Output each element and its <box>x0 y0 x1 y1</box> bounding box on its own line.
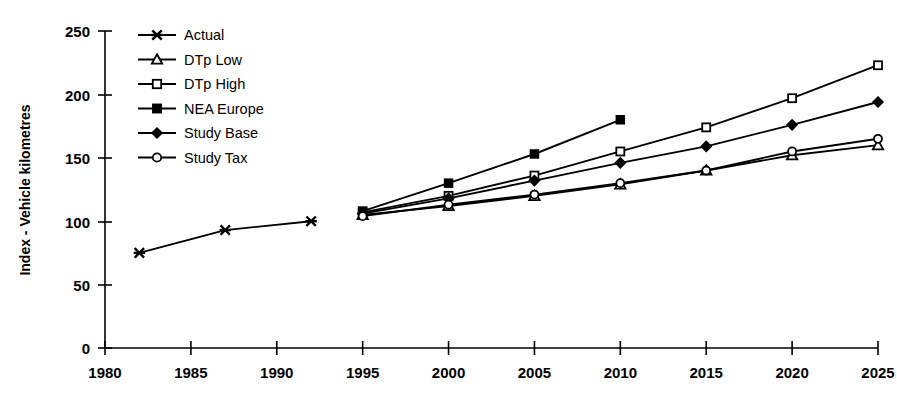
x-tick-label-1995: 1995 <box>346 364 379 381</box>
x-tick-label-2015: 2015 <box>690 364 723 381</box>
data-point-study-tax-1995 <box>359 212 367 220</box>
data-point-study-base-2015 <box>701 141 711 151</box>
x-tick-label-2005: 2005 <box>518 364 551 381</box>
data-point-actual-1992 <box>305 217 316 226</box>
legend-marker-square-icon <box>153 104 161 112</box>
y-tick-label-250: 250 <box>65 23 90 40</box>
x-tick-label-1985: 1985 <box>174 364 207 381</box>
data-point-study-base-2025 <box>873 97 883 107</box>
legend-marker-square-icon <box>153 80 161 88</box>
x-tick-label-1990: 1990 <box>260 364 293 381</box>
legend-label: Study Base <box>184 125 258 141</box>
data-point-study-tax-2005 <box>530 191 538 199</box>
data-point-study-tax-2020 <box>788 147 796 155</box>
series-line <box>139 221 311 253</box>
x-tick-label-2020: 2020 <box>775 364 808 381</box>
data-point-nea-europe-2000 <box>445 179 453 187</box>
x-tick-label-2010: 2010 <box>604 364 637 381</box>
y-tick-label-150: 150 <box>65 150 90 167</box>
chart-container: Index - Vehicle kilometres 250 200 150 1… <box>0 0 897 403</box>
y-tick-label-50: 50 <box>73 277 90 294</box>
data-point-study-base-2010 <box>615 158 625 168</box>
data-point-actual-1987 <box>220 225 231 234</box>
series-actual <box>134 217 317 258</box>
data-point-study-tax-2015 <box>702 166 710 174</box>
legend-item-nea-europe[interactable]: NEA Europe <box>138 101 264 117</box>
data-point-study-tax-2010 <box>616 179 624 187</box>
legend-marker-diamond-icon <box>152 128 162 138</box>
y-tick-label-0: 0 <box>82 340 90 357</box>
legend-marker-cross-icon <box>151 30 162 39</box>
legend-label: Actual <box>184 27 224 43</box>
x-tick-label-2025: 2025 <box>861 364 894 381</box>
series-line <box>363 65 878 212</box>
x-tick-label-1980: 1980 <box>88 364 121 381</box>
x-axis-ticks: 1980198519901995200020052010201520202025 <box>88 341 894 381</box>
legend-item-actual[interactable]: Actual <box>138 27 224 43</box>
data-point-study-base-2020 <box>787 120 797 130</box>
x-tick-label-2000: 2000 <box>432 364 465 381</box>
series-dtp-high <box>359 61 882 216</box>
data-point-dtp-high-2010 <box>616 147 624 155</box>
data-point-nea-europe-2005 <box>530 150 538 158</box>
data-point-dtp-high-2015 <box>702 123 710 131</box>
data-point-dtp-high-2025 <box>874 61 882 69</box>
legend-item-dtp-low[interactable]: DTp Low <box>138 52 243 68</box>
data-point-study-tax-2025 <box>874 135 882 143</box>
series-line <box>363 120 621 211</box>
data-point-study-tax-2000 <box>445 201 453 209</box>
legend-item-dtp-high[interactable]: DTp High <box>138 76 245 92</box>
line-chart: Index - Vehicle kilometres 250 200 150 1… <box>0 0 897 403</box>
legend-label: DTp High <box>184 76 245 92</box>
legend-label: DTp Low <box>184 52 243 68</box>
legend-item-study-base[interactable]: Study Base <box>138 125 258 141</box>
legend-marker-circle-icon <box>153 153 161 161</box>
chart-legend: ActualDTp LowDTp HighNEA EuropeStudy Bas… <box>138 27 264 166</box>
data-point-actual-1982 <box>134 248 145 257</box>
y-tick-label-100: 100 <box>65 214 90 231</box>
y-tick-label-200: 200 <box>65 87 90 104</box>
data-point-dtp-high-2020 <box>788 94 796 102</box>
data-point-nea-europe-2010 <box>616 116 624 124</box>
legend-label: NEA Europe <box>184 101 264 117</box>
y-axis-title: Index - Vehicle kilometres <box>17 104 33 275</box>
legend-item-study-tax[interactable]: Study Tax <box>138 150 248 166</box>
legend-label: Study Tax <box>184 150 248 166</box>
